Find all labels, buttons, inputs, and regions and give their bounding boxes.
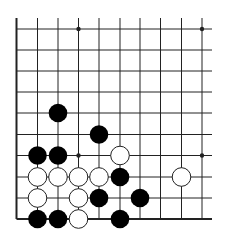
white-stone: [69, 189, 88, 208]
black-stone: [28, 210, 47, 229]
black-stone: [90, 125, 109, 144]
black-stone: [111, 210, 130, 229]
white-stone: [69, 210, 88, 229]
black-stone: [49, 104, 68, 123]
white-stone: [90, 168, 109, 187]
white-stone: [28, 168, 47, 187]
black-stone: [111, 168, 130, 187]
white-stone: [69, 168, 88, 187]
black-stone: [49, 210, 68, 229]
white-stone: [111, 146, 130, 165]
black-stone: [28, 146, 47, 165]
board-grid: [17, 18, 213, 219]
black-stone: [90, 189, 109, 208]
black-stone: [49, 146, 68, 165]
black-stone: [131, 189, 150, 208]
hoshi-point-icon: [200, 27, 204, 31]
white-stone: [172, 168, 191, 187]
hoshi-point-icon: [200, 153, 204, 157]
white-stone: [49, 168, 68, 187]
stones: [28, 104, 191, 229]
hoshi-point-icon: [76, 153, 80, 157]
white-stone: [28, 189, 47, 208]
go-board: [0, 0, 227, 243]
hoshi-point-icon: [76, 27, 80, 31]
